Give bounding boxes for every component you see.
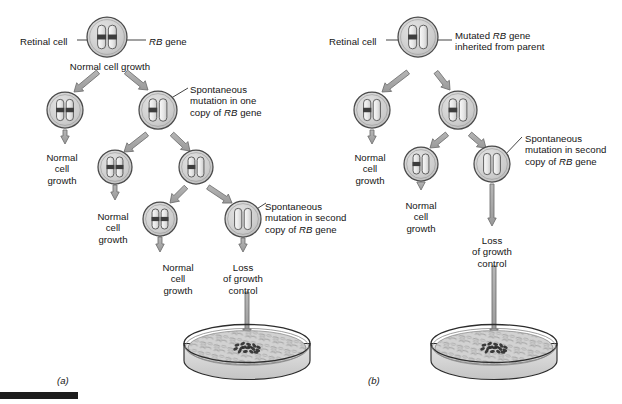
cell-cell-double-mutant <box>474 146 510 182</box>
label-a-retinal-cell-label: Retinal cell <box>20 36 68 47</box>
chromosome-right <box>66 99 74 120</box>
label-b-retinal-cell-label: Retinal cell <box>329 36 377 47</box>
chromosome-left <box>56 99 64 120</box>
arrow-left-down <box>61 130 69 144</box>
cell-cell-normal-mid <box>98 150 132 184</box>
label-b-normal-growth-left: Normalcellgrowth <box>354 152 385 186</box>
chromosome-left <box>149 99 158 121</box>
chromosome-right <box>159 99 167 121</box>
arrow-mutant-to-mid <box>124 132 149 152</box>
cell-cell-normal-branch <box>47 92 83 128</box>
chromosome-right <box>197 157 204 177</box>
arrow-mid2-to-mutant2 <box>207 185 232 203</box>
label-a-spontaneous-one: Spontaneousmutation in onecopy of RB gen… <box>190 84 262 118</box>
chromosome-left <box>97 25 106 49</box>
cell-cell-mutant-mid <box>179 150 213 184</box>
petri-dish-b <box>431 325 557 380</box>
cell-cell-parent <box>87 17 127 57</box>
panel-label-b: (b) <box>368 375 380 386</box>
chromosome-left <box>188 157 196 177</box>
cell-cell-left-mutant <box>354 92 390 128</box>
arrow-double-down <box>488 184 496 226</box>
petri-dish-a <box>184 325 310 380</box>
cell-cell-mutant-one <box>139 91 177 129</box>
cell-cell-normal-low <box>143 202 177 236</box>
label-a-rb-gene-label: RB gene <box>149 36 187 47</box>
chromosome-left <box>107 157 115 177</box>
label-a-normal-growth-left: Normalcellgrowth <box>46 152 77 186</box>
label-a-spontaneous-second: Spontaneousmutation in secondcopy of RB … <box>265 201 346 235</box>
petri-dish-layer <box>184 325 557 380</box>
arrow-mutant2-down <box>239 238 247 252</box>
label-b-normal-growth-mid: Normalcellgrowth <box>405 200 436 234</box>
cell-cell-mid-mutant <box>404 147 438 181</box>
chromosome-right <box>422 154 429 174</box>
cell-cell-right-mutant <box>439 91 477 129</box>
footer-rule-bar <box>0 392 78 399</box>
label-a-normal-growth-mid: Normalcellgrowth <box>97 211 128 245</box>
arrow-mid-down <box>417 182 425 190</box>
chromosome-left <box>413 154 421 174</box>
arrow-parent-to-left <box>382 70 410 92</box>
chromosome-left <box>235 208 242 229</box>
arrow-low-down <box>156 237 164 252</box>
arrow-parent-to-right <box>434 70 450 90</box>
label-a-loss-of-control: Lossof growthcontrol <box>223 262 263 296</box>
arrow-right-to-double <box>468 132 486 148</box>
chromosome-right <box>419 25 427 49</box>
arrow-parent-to-right <box>124 70 148 90</box>
cell-cell-mutant-two <box>225 201 261 237</box>
chromosome-right <box>459 99 467 121</box>
label-a-normal-growth-top: Normal cell growth <box>70 61 150 72</box>
arrow-to-dish <box>490 266 498 337</box>
chromosome-right <box>244 208 251 229</box>
chromosome-right <box>116 157 124 177</box>
arrow-parent-to-left <box>74 70 100 92</box>
chromosome-right <box>108 25 117 49</box>
chromosome-right <box>161 209 169 229</box>
label-b-loss-of-control: Lossof growthcontrol <box>472 235 512 269</box>
cell-cell-parent-mutant <box>398 17 438 57</box>
chromosome-left <box>363 99 371 120</box>
panel-label-a: (a) <box>57 375 69 386</box>
arrow-left-down <box>368 130 376 144</box>
chromosome-right <box>373 99 380 120</box>
arrow-mutant-to-right <box>170 132 190 151</box>
arrow-right-to-mid <box>430 132 449 148</box>
arrow-mid-down <box>111 185 119 200</box>
label-a-normal-growth-low: Normalcellgrowth <box>162 262 193 296</box>
chromosome-left <box>408 25 417 49</box>
chromosome-left <box>449 99 458 121</box>
label-b-spontaneous-second: Spontaneousmutation in secondcopy of RB … <box>525 133 606 167</box>
label-b-mutated-inherited: Mutated RB geneinherited from parent <box>455 30 545 53</box>
chromosome-right <box>493 153 500 174</box>
chromosome-left <box>484 153 491 174</box>
chromosome-left <box>152 209 160 229</box>
arrow-mid2-to-low <box>170 185 188 203</box>
